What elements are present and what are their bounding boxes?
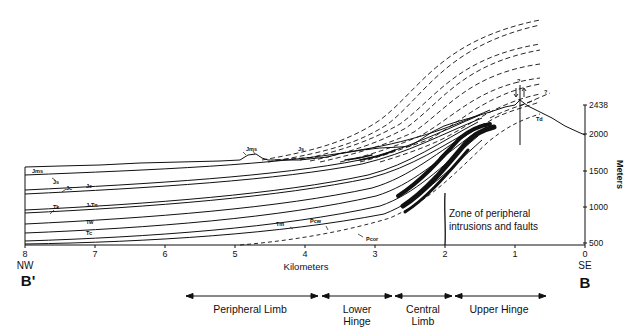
region-peripheral-limb: Peripheral Limb (213, 303, 287, 315)
formation-label-td: Td (536, 117, 543, 123)
formation-label-js-outlier: Js (298, 147, 304, 153)
x-tick-4: 4 (302, 250, 307, 259)
region-label: Lower (343, 303, 372, 315)
direction-nw: NW (17, 261, 34, 271)
y-tick-1500: 1500 (589, 167, 608, 176)
formation-label-pcor: Pcor (366, 237, 378, 243)
fault-query-mark: ? (517, 79, 520, 85)
region-upper-hinge: Upper Hinge (470, 303, 529, 315)
formation-label-je: Je (86, 184, 92, 190)
region-label: Hinge (343, 315, 372, 327)
x-tick-0: 0 (582, 250, 587, 259)
y-tick-1000: 1000 (589, 203, 608, 212)
x-tick-5: 5 (232, 250, 237, 259)
region-label: Upper Hinge (470, 303, 529, 315)
x-tick-3: 3 (372, 250, 377, 259)
zone-annotation: Zone of peripheral intrusions and faults (449, 208, 538, 233)
fault-query-mark-2: ? (544, 90, 547, 96)
zone-annotation-line1: Zone of peripheral (449, 208, 538, 221)
section-label-b: B (580, 275, 591, 290)
formation-label-jms: Jms (32, 169, 43, 175)
intrusion-bands (345, 124, 494, 212)
x-tick-7: 7 (92, 250, 97, 259)
region-central-limb: Central Limb (406, 303, 440, 327)
zone-annotation-line2: intrusions and faults (449, 221, 538, 234)
region-label: Central (406, 303, 440, 315)
x-tick-2: 2 (442, 250, 447, 259)
formation-label-pcw: Pcw (310, 219, 321, 225)
formation-label-js: Js (53, 180, 59, 186)
x-axis-title: Kilometers (284, 262, 329, 272)
region-arrows (186, 294, 546, 299)
formation-label-tc: Tc (86, 231, 92, 237)
region-label: Limb (406, 315, 440, 327)
y-tick-2000: 2000 (589, 130, 608, 139)
fault-line-km2 (445, 193, 446, 245)
direction-se: SE (578, 261, 591, 271)
y-tick-2438: 2438 (589, 101, 608, 110)
formation-label-jms-outlier: Jms (246, 147, 257, 153)
formation-label-tw: Tw (86, 220, 93, 226)
region-lower-hinge: Lower Hinge (343, 303, 372, 327)
formation-label-tk: Tk (53, 205, 59, 211)
y-axis-title: Meters (615, 160, 624, 189)
formation-label-tm: Tm (276, 222, 284, 228)
x-tick-1: 1 (512, 250, 517, 259)
ground-surface (25, 100, 585, 167)
section-label-b-prime: B' (21, 273, 35, 288)
x-tick-8: 8 (22, 250, 27, 259)
region-label: Peripheral Limb (213, 303, 287, 315)
y-tick-500: 500 (589, 239, 603, 248)
x-tick-6: 6 (162, 250, 167, 259)
formation-label-jc: Jc (66, 186, 72, 192)
cross-section-drawing (0, 0, 637, 336)
formation-label-j-tn: J-Tn (86, 203, 98, 209)
